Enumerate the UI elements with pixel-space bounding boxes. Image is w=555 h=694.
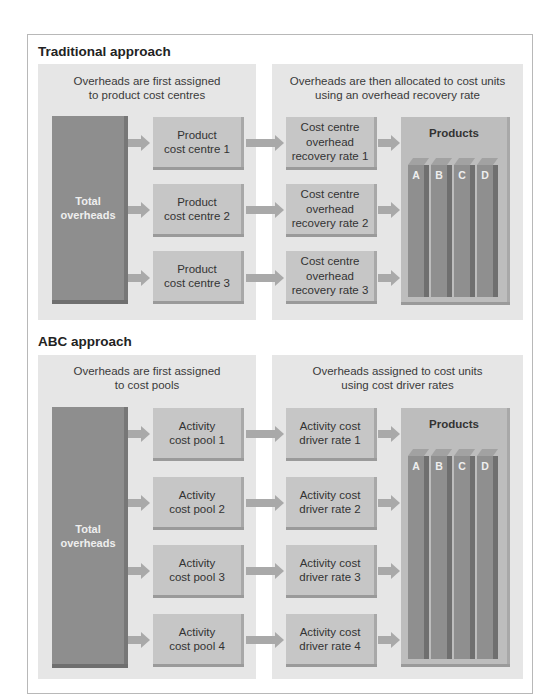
product-cost-centre-1: Product cost centre 1 bbox=[153, 117, 241, 167]
product-letter: A bbox=[408, 169, 424, 181]
product-letter: B bbox=[431, 460, 447, 472]
traditional-title: Traditional approach bbox=[38, 44, 171, 59]
product-bar-b: B bbox=[431, 165, 447, 297]
activity-cost-pool-3: Activity cost pool 3 bbox=[153, 545, 241, 595]
abc-products-box: Products A B C D bbox=[401, 408, 507, 664]
arrow-icon bbox=[378, 563, 400, 579]
arrow-icon bbox=[246, 202, 284, 218]
product-bar-a: A bbox=[408, 456, 424, 659]
cost-centre-recovery-rate-3: Cost centre overhead recovery rate 3 bbox=[286, 251, 374, 301]
arrow-icon bbox=[128, 202, 150, 218]
arrow-icon bbox=[246, 632, 284, 648]
arrow-icon bbox=[378, 270, 400, 286]
arrow-icon bbox=[128, 632, 150, 648]
product-cost-centre-3: Product cost centre 3 bbox=[153, 251, 241, 301]
product-letter: B bbox=[431, 169, 447, 181]
cost-centre-recovery-rate-1: Cost centre overhead recovery rate 1 bbox=[286, 117, 374, 167]
product-bar-b: B bbox=[431, 456, 447, 659]
product-letter: C bbox=[454, 169, 470, 181]
arrow-icon bbox=[378, 426, 400, 442]
arrow-icon bbox=[378, 495, 400, 511]
arrow-icon bbox=[246, 563, 284, 579]
abc-total-overheads: Total overheads bbox=[52, 407, 124, 664]
products-label: Products bbox=[401, 418, 507, 430]
product-letter: C bbox=[454, 460, 470, 472]
product-bar-a: A bbox=[408, 165, 424, 297]
product-letter: D bbox=[477, 460, 493, 472]
traditional-total-overheads: Total overheads bbox=[52, 116, 124, 300]
abc-right-caption: Overheads assigned to cost units using c… bbox=[272, 364, 523, 392]
abc-left-caption: Overheads are first assigned to cost poo… bbox=[38, 364, 256, 392]
product-bar-d: D bbox=[477, 165, 493, 297]
activity-cost-driver-rate-2: Activity cost driver rate 2 bbox=[286, 477, 374, 527]
traditional-right-caption: Overheads are then allocated to cost uni… bbox=[272, 74, 523, 102]
product-bar-c: C bbox=[454, 165, 470, 297]
product-letter: A bbox=[408, 460, 424, 472]
arrow-icon bbox=[246, 426, 284, 442]
arrow-icon bbox=[246, 270, 284, 286]
products-label: Products bbox=[401, 127, 507, 139]
arrow-icon bbox=[378, 202, 400, 218]
activity-cost-driver-rate-4: Activity cost driver rate 4 bbox=[286, 614, 374, 664]
product-cost-centre-2: Product cost centre 2 bbox=[153, 184, 241, 234]
traditional-products-box: Products A B C D bbox=[401, 117, 507, 302]
product-bar-d: D bbox=[477, 456, 493, 659]
arrow-icon bbox=[246, 495, 284, 511]
product-bar-c: C bbox=[454, 456, 470, 659]
cost-centre-recovery-rate-2: Cost centre overhead recovery rate 2 bbox=[286, 184, 374, 234]
activity-cost-pool-4: Activity cost pool 4 bbox=[153, 614, 241, 664]
activity-cost-driver-rate-1: Activity cost driver rate 1 bbox=[286, 408, 374, 458]
activity-cost-driver-rate-3: Activity cost driver rate 3 bbox=[286, 545, 374, 595]
abc-title: ABC approach bbox=[38, 334, 132, 349]
arrow-icon bbox=[128, 270, 150, 286]
traditional-left-caption: Overheads are first assigned to product … bbox=[38, 74, 256, 102]
arrow-icon bbox=[128, 495, 150, 511]
activity-cost-pool-2: Activity cost pool 2 bbox=[153, 477, 241, 527]
arrow-icon bbox=[128, 563, 150, 579]
activity-cost-pool-1: Activity cost pool 1 bbox=[153, 408, 241, 458]
arrow-icon bbox=[246, 135, 284, 151]
arrow-icon bbox=[128, 135, 150, 151]
arrow-icon bbox=[128, 426, 150, 442]
arrow-icon bbox=[378, 632, 400, 648]
product-letter: D bbox=[477, 169, 493, 181]
arrow-icon bbox=[378, 135, 400, 151]
